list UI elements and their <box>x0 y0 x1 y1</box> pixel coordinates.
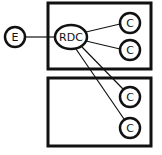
child-node[interactable]: C <box>120 87 140 107</box>
child-node-label: C <box>126 44 134 57</box>
hub-node[interactable]: RDC <box>55 25 87 49</box>
hub-node-label: RDC <box>59 31 83 44</box>
edge-rdc-to-c4 <box>76 49 124 119</box>
edge-rdc-to-c2 <box>86 41 120 49</box>
external-node-label: E <box>12 31 19 44</box>
edge-rdc-to-c1 <box>86 24 120 32</box>
child-node-label: C <box>126 17 134 30</box>
diagram-canvas: E RDC C C C C <box>0 0 162 155</box>
child-node[interactable]: C <box>120 118 140 138</box>
child-node[interactable]: C <box>120 40 140 60</box>
external-node[interactable]: E <box>5 27 25 47</box>
child-node[interactable]: C <box>120 13 140 33</box>
child-node-label: C <box>126 122 134 135</box>
child-node-label: C <box>126 91 134 104</box>
